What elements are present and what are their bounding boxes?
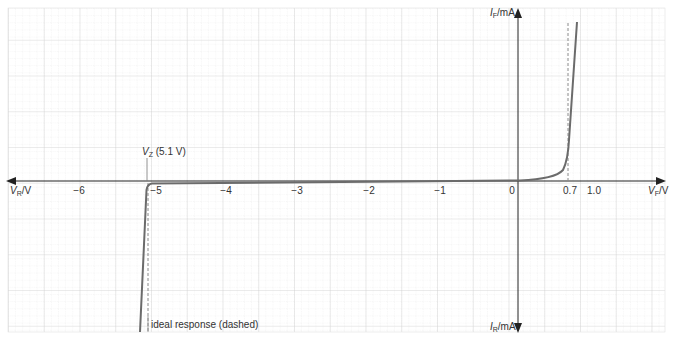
tick-label: 1.0 <box>587 185 601 196</box>
vr-axis-label: VR/V <box>10 185 32 197</box>
tick-label: −1 <box>434 185 446 196</box>
tick-label: 0 <box>509 185 515 196</box>
tick-label: −2 <box>363 185 375 196</box>
vz-annotation: VZ (5.1 V) <box>142 146 186 158</box>
tick-label: −6 <box>73 185 85 196</box>
tick-label: −5 <box>150 185 162 196</box>
tick-label: −3 <box>291 185 303 196</box>
ideal-response-note: ideal response (dashed) <box>151 319 258 330</box>
tick-label: −4 <box>220 185 232 196</box>
tick-label: 0.7 <box>563 185 577 196</box>
vf-axis-label: VF/V <box>648 185 669 197</box>
zener-iv-chart: −6 −5 −4 −3 −2 −1 0 0.7 1.0 VR/V VF/V IF… <box>0 0 678 351</box>
grid <box>8 8 665 332</box>
